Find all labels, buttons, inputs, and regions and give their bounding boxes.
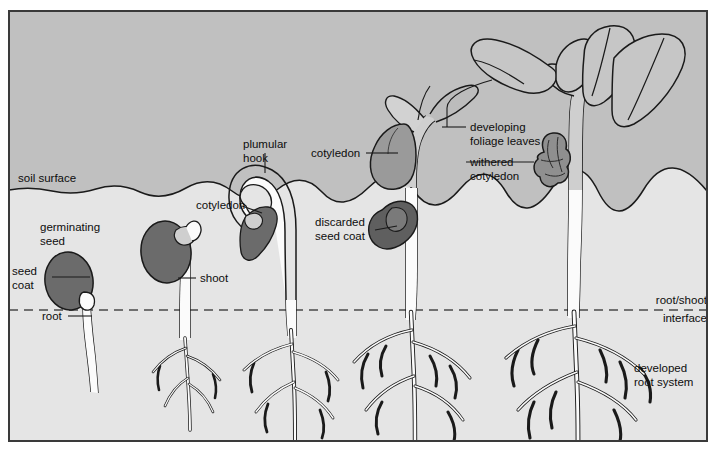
label-soil-surface: soil surface [18,172,76,184]
label-germinating-seed-line1: germinating [40,221,100,233]
label-discarded-seed-coat-line2: seed coat [315,230,366,242]
label-developing-leaves-line2: foliage leaves [470,135,541,147]
germination-diagram: soil surface germinating seed seed coat … [0,0,717,450]
label-germinating-seed-line2: seed [40,235,65,247]
label-root-shoot-interface-line1: root/shoot [656,294,708,306]
label-developing-leaves-line1: developing [470,121,526,133]
stage1-emerging-radicle-tip [79,292,94,310]
label-plumular-hook-line2: hook [243,152,268,164]
label-developed-root-system-line1: developed [634,362,687,374]
label-seed-coat-line2: coat [12,279,35,291]
label-discarded-seed-coat-line1: discarded [315,216,365,228]
label-cotyledon-stage3: cotyledon [196,199,245,211]
label-root: root [42,310,63,322]
label-cotyledon-stage4: cotyledon [311,147,360,159]
stage3-cotyledon-highlight [245,213,263,229]
label-withered-cotyledon-line2: cotyledon [470,170,519,182]
soil-region [9,168,707,441]
label-seed-coat-line1: seed [12,265,37,277]
label-root-shoot-interface-line2: interface [663,312,707,324]
label-shoot: shoot [200,272,229,284]
label-developed-root-system-line2: root system [634,376,693,388]
label-plumular-hook-line1: plumular [243,138,287,150]
label-withered-cotyledon-line1: withered [469,156,513,168]
